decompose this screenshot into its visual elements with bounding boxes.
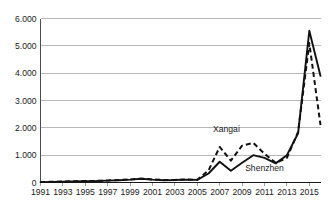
y-tick-label-6000: 6.000 [15, 14, 37, 24]
x-tick-label-2015: 2015 [300, 187, 319, 197]
y-tick-label-4000: 4.000 [15, 68, 37, 78]
annotation-shenzhen: Shenzhen [245, 163, 284, 173]
line-chart: 01.0002.0003.0004.0005.0006.000 19911993… [0, 0, 328, 209]
x-tick-label-2005: 2005 [188, 187, 207, 197]
x-tick-label-2011: 2011 [255, 187, 274, 197]
chart-canvas: 01.0002.0003.0004.0005.0006.000 19911993… [0, 0, 328, 209]
annotation-xangai: Xangai [213, 124, 240, 134]
x-tick-label-2009: 2009 [233, 187, 252, 197]
x-tick-label-2007: 2007 [210, 187, 229, 197]
x-tick-label-1993: 1993 [53, 187, 72, 197]
y-tick-label-3000: 3.000 [15, 96, 37, 106]
x-tick-label-2013: 2013 [277, 187, 296, 197]
x-tick-label-1995: 1995 [76, 187, 95, 197]
x-tick-label-1999: 1999 [121, 187, 140, 197]
y-tick-label-1000: 1.000 [15, 150, 37, 160]
series-line-shenzhen [41, 31, 321, 182]
x-tick-label-1991: 1991 [31, 187, 50, 197]
y-tick-label-5000: 5.000 [15, 41, 37, 51]
x-tick-label-2001: 2001 [143, 187, 162, 197]
x-tick-label-2003: 2003 [165, 187, 184, 197]
gridlines [41, 19, 321, 156]
data-series [41, 31, 321, 182]
y-tick-label-2000: 2.000 [15, 123, 37, 133]
x-tick-label-1997: 1997 [98, 187, 117, 197]
y-axis-tick-labels: 01.0002.0003.0004.0005.0006.000 [15, 14, 37, 188]
x-axis-tick-labels: 1991199319951997199920012003200520072009… [31, 187, 319, 197]
